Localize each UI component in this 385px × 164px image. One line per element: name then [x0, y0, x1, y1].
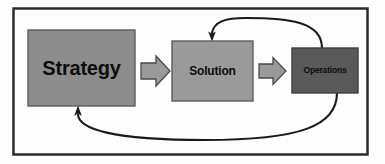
node-solution[interactable]	[172, 41, 253, 101]
diagram-canvas: Strategy Solution Operations	[0, 0, 385, 164]
node-strategy[interactable]	[28, 30, 135, 106]
diagram-graphics	[0, 0, 385, 164]
node-operations[interactable]	[292, 48, 358, 93]
